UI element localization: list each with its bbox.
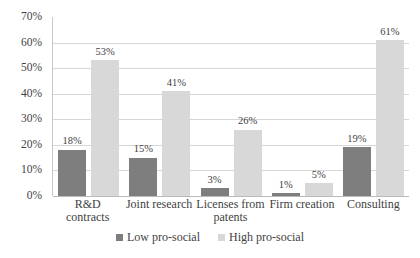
- bar-value-label: 53%: [95, 47, 114, 58]
- bar-slot: 41%: [162, 17, 190, 196]
- bar-slot: 53%: [91, 17, 119, 196]
- bar-value-label: 3%: [208, 175, 222, 186]
- bar[interactable]: [58, 150, 86, 196]
- bar-group: 3%26%: [195, 17, 266, 196]
- chart-legend: Low pro-socialHigh pro-social: [0, 231, 420, 243]
- legend-label: Low pro-social: [127, 231, 200, 243]
- legend-swatch-icon: [218, 234, 225, 241]
- bar[interactable]: [201, 188, 229, 196]
- bar-group: 1%5%: [267, 17, 338, 196]
- bar-group: 18%53%: [53, 17, 124, 196]
- bar[interactable]: [129, 158, 157, 196]
- y-axis-tick-label: 30%: [21, 114, 42, 126]
- bar-value-label: 1%: [279, 180, 293, 191]
- legend-item[interactable]: Low pro-social: [116, 231, 200, 243]
- legend-item[interactable]: High pro-social: [218, 231, 304, 243]
- bar-slot: 18%: [58, 17, 86, 196]
- bar-slot: 26%: [234, 17, 262, 196]
- bar-groups: 18%53%15%41%3%26%1%5%19%61%: [53, 17, 409, 196]
- y-axis-tick-label: 20%: [21, 139, 42, 151]
- bar-value-label: 5%: [312, 170, 326, 181]
- y-axis-tick-label: 40%: [21, 88, 42, 100]
- y-axis-tick-label: 60%: [21, 37, 42, 49]
- bar[interactable]: [305, 183, 333, 196]
- bar-slot: 3%: [201, 17, 229, 196]
- y-axis-tick-label: 0%: [27, 190, 42, 202]
- legend-label: High pro-social: [229, 231, 304, 243]
- y-axis-tick-label: 50%: [21, 62, 42, 74]
- bar-slot: 61%: [376, 17, 404, 196]
- x-axis-tick-label: R&D contracts: [52, 198, 123, 224]
- x-axis-tick-label: Firm creation: [266, 198, 337, 224]
- x-axis-tick-label: Licenses from patents: [195, 198, 266, 224]
- x-axis: R&D contractsJoint researchLicenses from…: [52, 198, 409, 224]
- bar[interactable]: [162, 91, 190, 196]
- y-axis-tick-label: 70%: [21, 11, 42, 23]
- bar-group: 19%61%: [338, 17, 409, 196]
- bar-group: 15%41%: [124, 17, 195, 196]
- bar-value-label: 41%: [167, 78, 186, 89]
- bar-value-label: 61%: [380, 27, 399, 38]
- bar-chart: 70%60%50%40%30%20%10%0% 18%53%15%41%3%26…: [0, 0, 420, 258]
- bar-value-label: 18%: [62, 136, 81, 147]
- bar[interactable]: [376, 40, 404, 196]
- x-axis-tick-label: Joint research: [123, 198, 194, 224]
- bar[interactable]: [234, 130, 262, 196]
- legend-swatch-icon: [116, 234, 123, 241]
- bar-slot: 19%: [343, 17, 371, 196]
- bar-slot: 15%: [129, 17, 157, 196]
- y-axis: 70%60%50%40%30%20%10%0%: [0, 17, 48, 196]
- bar-value-label: 15%: [134, 144, 153, 155]
- bar-value-label: 26%: [238, 116, 257, 127]
- bar[interactable]: [91, 60, 119, 196]
- x-axis-tick-label: Consulting: [338, 198, 409, 224]
- y-axis-tick-label: 10%: [21, 165, 42, 177]
- bar-value-label: 19%: [347, 134, 366, 145]
- bar[interactable]: [272, 193, 300, 196]
- bar-slot: 5%: [305, 17, 333, 196]
- bar-slot: 1%: [272, 17, 300, 196]
- plot-area: 18%53%15%41%3%26%1%5%19%61%: [52, 17, 409, 196]
- bar[interactable]: [343, 147, 371, 196]
